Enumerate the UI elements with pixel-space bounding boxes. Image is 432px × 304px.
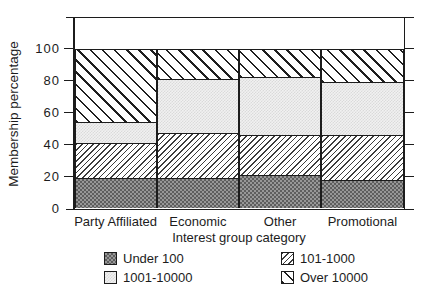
bar-segment xyxy=(239,175,321,209)
bar-segment xyxy=(75,143,157,178)
bar-segment xyxy=(239,77,321,135)
legend-swatch-light-checker-icon xyxy=(104,271,117,284)
y-tick-left xyxy=(64,144,73,146)
y-tick-label: 60 xyxy=(26,106,60,120)
legend-label: Over 10000 xyxy=(300,270,368,285)
legend-item-101-1000: 101-1000 xyxy=(281,252,368,265)
chart-screenshot: Membership percentage Interest group cat… xyxy=(0,0,432,304)
y-tick-label: 0 xyxy=(26,202,60,216)
bar-segment xyxy=(157,49,239,79)
bar-segment xyxy=(239,49,321,78)
y-tick-label: 20 xyxy=(26,170,60,184)
y-tick-left xyxy=(64,176,73,178)
y-tick-right xyxy=(405,112,414,114)
y-tick-right xyxy=(405,48,414,50)
legend-label: 101-1000 xyxy=(300,251,355,266)
y-tick-left xyxy=(64,112,73,114)
x-tick-label: Promotional xyxy=(297,214,427,229)
legend-item-under-100: Under 100 xyxy=(104,252,192,265)
y-tick-right xyxy=(405,80,414,82)
bar-segment xyxy=(321,180,403,209)
bar-segment xyxy=(157,178,239,208)
legend-column-right: 101-1000 Over 10000 xyxy=(281,252,368,290)
x-axis-title: Interest group category xyxy=(73,230,405,245)
legend-item-1001-10000: 1001-10000 xyxy=(104,271,192,284)
bar-segment xyxy=(321,49,403,83)
y-tick-right xyxy=(405,144,414,146)
bar-segment xyxy=(321,82,403,135)
y-tick-left xyxy=(64,80,73,82)
legend-swatch-backward-hatch-icon xyxy=(281,271,294,284)
plot-frame-right xyxy=(404,17,406,211)
legend-label: Under 100 xyxy=(123,251,184,266)
y-tick-label: 80 xyxy=(26,74,60,88)
plot-frame-bottom xyxy=(66,209,414,211)
bar-segment xyxy=(75,178,157,208)
bar-segment xyxy=(239,135,321,175)
legend-swatch-forward-hatch-icon xyxy=(281,252,294,265)
y-tick-right xyxy=(405,176,414,178)
legend-swatch-dark-checker-icon xyxy=(104,252,117,265)
legend-column-left: Under 100 1001-10000 xyxy=(104,252,192,290)
legend-label: 1001-10000 xyxy=(123,270,192,285)
y-tick-left xyxy=(64,48,73,50)
y-tick-label: 40 xyxy=(26,138,60,152)
bar-segment xyxy=(321,135,403,180)
plot-frame-top xyxy=(66,17,414,19)
bar-segment xyxy=(157,79,239,133)
bar-segment xyxy=(157,133,239,178)
y-tick-label: 100 xyxy=(26,42,60,56)
bar-segment xyxy=(75,49,157,123)
legend-item-over-10000: Over 10000 xyxy=(281,271,368,284)
bar-segment xyxy=(75,122,157,143)
